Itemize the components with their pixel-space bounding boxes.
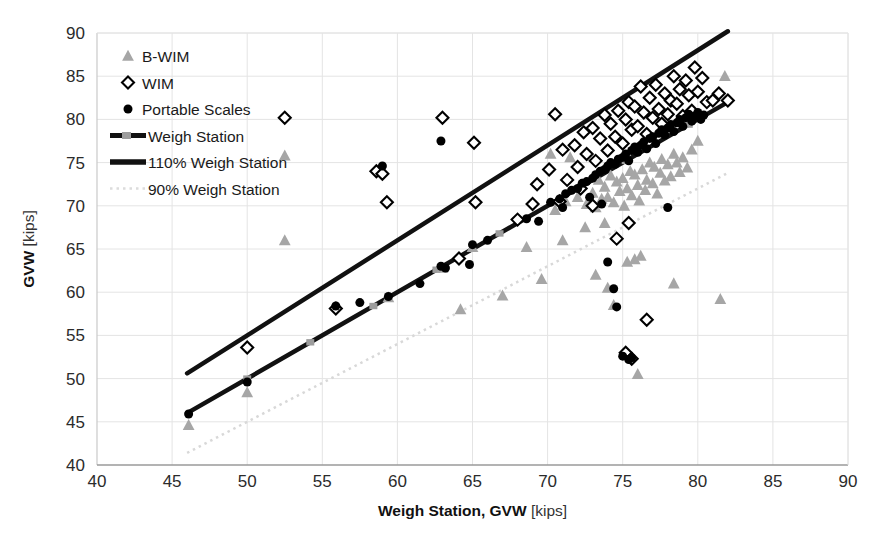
marker-portable-scales — [627, 353, 636, 362]
marker-portable-scales — [609, 284, 618, 293]
legend-label-90-weigh-station: 90% Weigh Station — [148, 181, 280, 198]
y-axis-title: GVW [kips] — [20, 210, 37, 288]
scatter-chart: 4045505560657075808590404550556065707580… — [0, 0, 888, 546]
marker-portable-scales — [378, 162, 387, 171]
legend-label-b-wim: B-WIM — [142, 48, 189, 65]
y-tick-label: 80 — [66, 110, 85, 129]
x-tick-label: 45 — [163, 472, 182, 491]
marker-portable-scales — [124, 105, 133, 114]
marker-portable-scales — [678, 122, 687, 131]
x-tick-label: 65 — [463, 472, 482, 491]
marker-portable-scales — [436, 137, 445, 146]
weigh-station-line-marker — [496, 230, 504, 236]
x-tick-label: 70 — [538, 472, 557, 491]
x-tick-label: 90 — [839, 472, 858, 491]
marker-portable-scales — [612, 302, 621, 311]
legend-line-marker — [122, 132, 131, 139]
y-tick-label: 45 — [66, 413, 85, 432]
legend-label-portable-scales: Portable Scales — [142, 101, 251, 118]
y-tick-label: 75 — [66, 154, 85, 173]
marker-portable-scales — [663, 203, 672, 212]
x-tick-label: 85 — [763, 472, 782, 491]
marker-portable-scales — [355, 298, 364, 307]
marker-portable-scales — [468, 240, 477, 249]
marker-portable-scales — [465, 260, 474, 269]
chart-root: 4045505560657075808590404550556065707580… — [0, 0, 888, 546]
marker-portable-scales — [597, 200, 606, 209]
marker-portable-scales — [585, 193, 594, 202]
x-tick-label: 50 — [238, 472, 257, 491]
y-tick-label: 40 — [66, 456, 85, 475]
weigh-station-line-marker — [306, 339, 314, 345]
marker-portable-scales — [651, 139, 660, 148]
weigh-station-line-marker — [369, 303, 377, 309]
y-tick-label: 65 — [66, 240, 85, 259]
marker-portable-scales — [699, 111, 708, 120]
legend-label-110-weigh-station: 110% Weigh Station — [148, 154, 287, 171]
marker-portable-scales — [331, 302, 340, 311]
y-tick-label: 90 — [66, 24, 85, 43]
y-tick-label: 50 — [66, 370, 85, 389]
y-tick-label: 55 — [66, 326, 85, 345]
marker-portable-scales — [624, 156, 633, 165]
y-tick-label: 60 — [66, 283, 85, 302]
marker-portable-scales — [558, 203, 567, 212]
legend-label-weigh-station: Weigh Station — [148, 128, 244, 145]
marker-portable-scales — [483, 236, 492, 245]
x-axis-title: Weigh Station, GVW [kips] — [378, 502, 567, 519]
x-tick-label: 40 — [88, 472, 107, 491]
marker-portable-scales — [603, 257, 612, 266]
marker-portable-scales — [546, 198, 555, 207]
y-tick-label: 85 — [66, 67, 85, 86]
marker-portable-scales — [534, 217, 543, 226]
x-tick-label: 55 — [313, 472, 332, 491]
marker-portable-scales — [441, 264, 450, 273]
legend-label-wim: WIM — [142, 75, 174, 92]
marker-portable-scales — [669, 127, 678, 136]
marker-portable-scales — [384, 292, 393, 301]
x-tick-label: 75 — [613, 472, 632, 491]
marker-portable-scales — [243, 378, 252, 387]
marker-portable-scales — [522, 214, 531, 223]
marker-portable-scales — [184, 410, 193, 419]
x-tick-label: 60 — [388, 472, 407, 491]
x-tick-label: 80 — [688, 472, 707, 491]
marker-portable-scales — [642, 144, 651, 153]
marker-portable-scales — [415, 279, 424, 288]
y-tick-label: 70 — [66, 197, 85, 216]
